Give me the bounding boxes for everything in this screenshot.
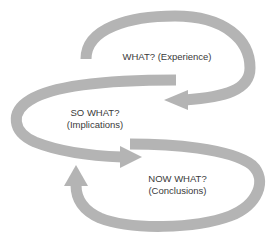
stage-now-what-label: NOW WHAT? (Conclusions): [135, 173, 220, 197]
reflection-cycle-diagram: WHAT? (Experience) SO WHAT? (Implication…: [0, 0, 276, 235]
stage-what-title: WHAT?: [122, 51, 157, 62]
stage-so-what-title: SO WHAT?: [55, 107, 135, 119]
stage-so-what-subtitle: (Implications): [55, 119, 135, 131]
stage-what-subtitle: (Experience): [158, 51, 212, 62]
stage-now-what-subtitle: (Conclusions): [135, 185, 220, 197]
stage-what-label: WHAT? (Experience): [122, 51, 212, 63]
what-loop-arrow: [86, 16, 250, 110]
stage-now-what-title: NOW WHAT?: [135, 173, 220, 185]
cycle-arrows: [0, 0, 276, 235]
stage-so-what-label: SO WHAT? (Implications): [55, 107, 135, 131]
